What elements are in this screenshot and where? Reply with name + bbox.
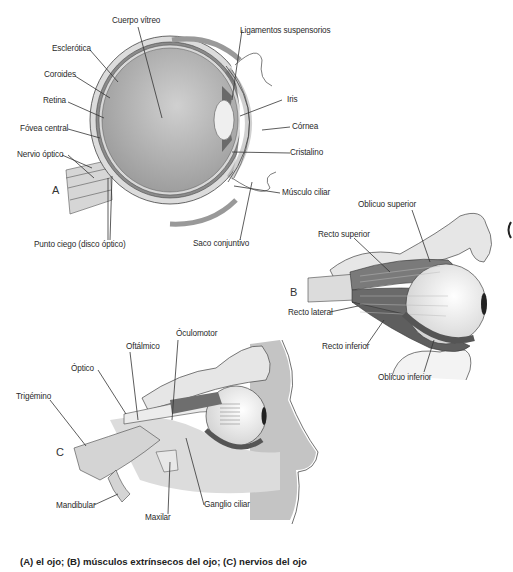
label-trigemino: Trigémino [16,392,51,401]
label-retina: Retina [43,96,66,105]
label-recto-lateral: Recto lateral [288,308,333,317]
label-coroides: Coroides [44,70,76,79]
label-punto-ciego: Punto ciego (disco óptico) [34,240,126,249]
label-cristalino: Cristalino [290,148,323,157]
label-mandibular: Mandibular [56,501,96,510]
label-recto-inferior: Recto inferior [322,342,369,351]
label-nervio-optico: Nervio óptico [17,150,63,159]
label-iris: Iris [287,95,298,104]
label-recto-superior: Recto superior [318,230,370,239]
label-optico: Óptico [71,364,94,373]
label-oblicuo-superior: Oblicuo superior [358,200,416,209]
anatomy-illustration [0,0,513,572]
panel-letter-a: A [52,184,59,196]
panel-a-eye-diagram [66,36,276,224]
panel-letter-c: C [56,446,64,458]
label-saco-conjuntivo: Saco conjuntivo [193,239,249,248]
label-esclerotica: Esclerótica [52,44,91,53]
label-musculo-ciliar: Músculo ciliar [282,188,330,197]
label-oculomotor: Óculomotor [176,329,217,338]
label-cornea: Córnea [292,122,318,131]
label-ligamentos-suspensorios: Ligamentos suspensorios [240,26,331,35]
label-oftalmico: Oftálmico [126,342,160,351]
label-ganglio-ciliar: Ganglio ciliar [204,500,250,509]
label-oblicuo-inferior: Oblicuo inferior [378,373,431,382]
figure-caption: (A) el ojo; (B) músculos extrínsecos del… [20,556,307,567]
panel-c-nerve-diagram [74,340,318,524]
label-cuerpo-vitreo: Cuerpo vítreo [112,16,160,25]
crop-mark [509,222,512,238]
label-fovea-central: Fóvea central [20,124,68,133]
panel-letter-b: B [290,286,297,298]
label-maxilar: Maxilar [145,513,171,522]
